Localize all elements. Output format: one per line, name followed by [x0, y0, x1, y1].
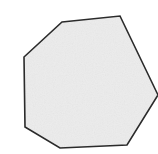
- shape-canvas: [0, 0, 158, 154]
- shape-svg-canvas: [0, 0, 158, 154]
